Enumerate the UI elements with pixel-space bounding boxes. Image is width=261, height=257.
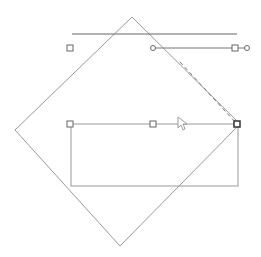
rectangle-shape[interactable]	[71, 124, 238, 186]
square-handle[interactable]	[67, 45, 73, 51]
square-handle[interactable]	[150, 121, 156, 127]
arrow-pointer-icon	[178, 117, 187, 130]
diamond-shape[interactable]	[15, 17, 240, 246]
square-handle[interactable]	[67, 121, 73, 127]
square-handle[interactable]	[234, 121, 240, 127]
dashed-guide-line	[180, 62, 237, 124]
selection-handles[interactable]	[67, 45, 250, 127]
circle-handle[interactable]	[151, 46, 156, 51]
circle-handle[interactable]	[245, 46, 250, 51]
drawing-canvas[interactable]	[0, 0, 261, 257]
square-handle[interactable]	[232, 45, 238, 51]
